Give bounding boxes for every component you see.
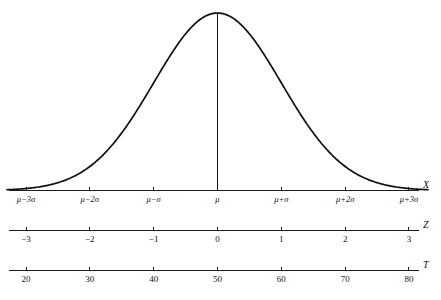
z-axis-tick-label: −3 (21, 234, 31, 244)
x-axis-tick-label: μ−2σ (80, 194, 100, 204)
t-axis-tick-label: 80 (404, 274, 414, 284)
t-axis-tick-label: 30 (85, 274, 95, 284)
t-axis-tick-label: 40 (149, 274, 159, 284)
z-axis-tick-label: 1 (279, 234, 284, 244)
z-axis-tick-label: 2 (343, 234, 348, 244)
x-axis-tick-label: μ−3σ (16, 194, 36, 204)
t-axis-tick-label: 20 (22, 274, 32, 284)
t-axis-tick-labels: 20304050607080 (22, 274, 414, 284)
t-axis: 20304050607080 T (9, 259, 430, 284)
x-axis-tick-labels: μ−3σμ−2σμ−σμμ+σμ+2σμ+3σ (16, 194, 419, 204)
figure-container: μ−3σμ−2σμ−σμμ+σμ+2σμ+3σ X −3−2−10123 Z 2… (0, 0, 441, 300)
t-axis-tick-label: 60 (277, 274, 287, 284)
z-axis: −3−2−10123 Z (9, 219, 429, 244)
z-axis-tick-label: −2 (85, 234, 95, 244)
x-axis-tick-label: μ+2σ (335, 194, 355, 204)
t-axis-name: T (423, 259, 430, 270)
z-axis-tick-label: 3 (407, 234, 412, 244)
t-axis-tick-label: 50 (213, 274, 223, 284)
x-axis: μ−3σμ−2σμ−σμμ+σμ+2σμ+3σ X (9, 179, 430, 204)
z-axis-tick-labels: −3−2−10123 (21, 234, 412, 244)
x-axis-tick-label: μ+σ (273, 194, 289, 204)
z-axis-tick-label: 0 (215, 234, 220, 244)
x-axis-tick-label: μ (214, 194, 219, 204)
x-axis-tick-label: μ+3σ (399, 194, 419, 204)
x-axis-tick-label: μ−σ (146, 194, 162, 204)
z-axis-tick-label: −1 (149, 234, 159, 244)
normal-curve-figure: μ−3σμ−2σμ−σμμ+σμ+2σμ+3σ X −3−2−10123 Z 2… (0, 0, 441, 300)
t-axis-tick-label: 70 (341, 274, 351, 284)
z-axis-name: Z (423, 219, 429, 230)
x-axis-name: X (422, 179, 430, 190)
